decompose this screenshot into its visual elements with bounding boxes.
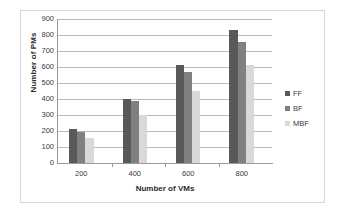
legend-item-MBF[interactable]: MBF [285,116,325,131]
chart-figure: Number of PMs 01002003004005006007008009… [0,0,347,216]
legend-swatch-MBF [285,121,290,126]
bar-BF-800 [238,42,246,163]
bar-MBF-200 [85,138,93,163]
bar-FF-200 [69,129,77,163]
y-tick-label-0: 0 [20,159,54,167]
x-tick-label-600: 600 [168,170,208,178]
bar-BF-400 [131,101,139,163]
bar-FF-800 [229,30,237,163]
x-axis-ticks: 200400600800 [58,170,272,184]
y-tick-label-900: 900 [20,15,54,23]
legend-label-FF: FF [293,90,302,98]
bar-MBF-800 [246,65,254,163]
legend-label-MBF: MBF [293,120,309,128]
bar-BF-200 [77,132,85,164]
y-tick-label-300: 300 [20,111,54,119]
bar-FF-600 [176,65,184,163]
legend-item-FF[interactable]: FF [285,86,325,101]
y-tick-label-500: 500 [20,79,54,87]
x-axis-title: Number of VMs [58,184,272,193]
y-tick-label-100: 100 [20,143,54,151]
bar-MBF-400 [139,115,147,163]
y-axis-line [57,19,58,164]
bar-FF-400 [123,99,131,164]
legend-swatch-FF [285,91,290,96]
y-tick-label-800: 800 [20,31,54,39]
y-axis-ticks: 0100200300400500600700800900 [18,0,54,216]
bar-MBF-600 [192,91,200,163]
plot-area [58,19,272,163]
y-tick-label-400: 400 [20,95,54,103]
legend-item-BF[interactable]: BF [285,101,325,116]
legend-swatch-BF [285,106,290,111]
y-tick-label-600: 600 [20,63,54,71]
x-tick-mark-1 [112,164,113,167]
legend-label-BF: BF [293,105,303,113]
x-tick-label-400: 400 [115,170,155,178]
x-tick-mark-2 [165,164,166,167]
y-tick-label-200: 200 [20,127,54,135]
x-tick-label-200: 200 [61,170,101,178]
gridline-900 [58,19,272,20]
x-tick-label-800: 800 [222,170,262,178]
chart-legend: FFBFMBF [285,86,325,131]
gridline-800 [58,35,272,36]
x-tick-mark-3 [219,164,220,167]
bar-BF-600 [184,72,192,163]
y-tick-label-700: 700 [20,47,54,55]
